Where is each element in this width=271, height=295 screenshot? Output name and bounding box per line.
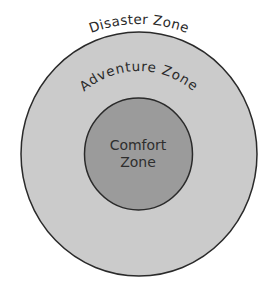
comfort-zone-label-line1: Comfort (110, 137, 167, 153)
comfort-zone-label-line2: Zone (120, 154, 156, 170)
zones-diagram: Disaster Zone Adventure Zone Comfort Zon… (0, 0, 271, 295)
